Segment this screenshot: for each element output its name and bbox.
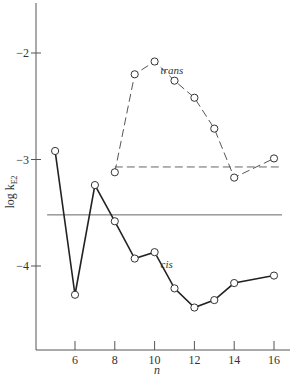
x-tick-label: 8 [112, 353, 118, 367]
y-axis-label-sub: E2 [10, 175, 19, 184]
series-cis [52, 147, 278, 311]
trans-point [211, 125, 218, 132]
cis-point [131, 255, 138, 262]
cis-point [151, 249, 158, 256]
cis-point [91, 181, 98, 188]
label-cis: cis [161, 258, 173, 270]
cis-point [211, 296, 218, 303]
x-tick-label: 16 [268, 353, 280, 367]
reference-lines [47, 167, 282, 215]
svg-text:log kE2: log kE2 [3, 175, 19, 208]
cis-point [171, 285, 178, 292]
cis-point [270, 272, 277, 279]
cis-point [52, 147, 59, 154]
x-tick-label: 14 [228, 353, 240, 367]
x-ticks: 6810121416 [72, 341, 280, 367]
trans-point [151, 58, 158, 65]
trans-point [231, 174, 238, 181]
x-axis-label: n [154, 363, 160, 377]
cis-point [231, 279, 238, 286]
trans-point [270, 155, 277, 162]
series [52, 58, 278, 311]
cis-line [55, 151, 274, 308]
x-tick-label: 6 [72, 353, 78, 367]
y-axis-label: log kE2 [3, 175, 19, 208]
cis-point [71, 291, 78, 298]
chart: −2−3−4 6810121416 transcis n log kE2 [0, 0, 292, 379]
y-tick-label: −3 [16, 153, 29, 167]
label-trans: trans [161, 64, 184, 76]
y-axis-label-main: log k [3, 184, 17, 208]
trans-point [191, 94, 198, 101]
cis-point [111, 218, 118, 225]
trans-point [131, 71, 138, 78]
y-tick-label: −4 [16, 259, 29, 273]
cis-point [191, 304, 198, 311]
axes: −2−3−4 6810121416 [16, 3, 290, 367]
y-tick-label: −2 [16, 46, 29, 60]
y-ticks: −2−3−4 [16, 46, 41, 273]
series-trans [111, 58, 277, 181]
trans-point [111, 169, 118, 176]
x-tick-label: 12 [188, 353, 200, 367]
trans-line [115, 62, 274, 178]
trans-point [171, 77, 178, 84]
